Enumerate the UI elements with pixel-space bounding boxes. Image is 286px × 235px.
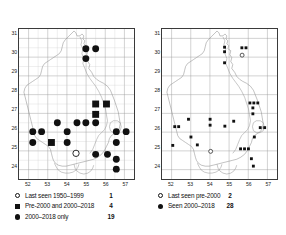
x-tick-54: 54 [60,181,74,187]
left-y-axis: 31 30 29 28 27 26 25 24 [0,28,17,180]
data-point-filled-square [256,102,259,105]
x-tick-55: 55 [79,181,93,187]
right-map-legend: Last seen pre-2000 2 Seen 2000–2018 28 [156,190,284,211]
data-point-open-circle [73,150,79,156]
data-point-filled-square [223,50,226,53]
left-map-data-points [19,29,134,179]
x-tick-56: 56 [242,181,256,187]
data-point-filled-square [253,136,256,139]
y-tick-30: 30 [144,50,160,55]
x-tick-54: 54 [203,181,217,187]
data-point-filled-square [196,143,199,146]
data-point-filled-square [223,61,226,64]
legend-item-pre-2000-and-2000-2018: Pre-2000 and 2000–2018 4 [13,201,141,212]
legend-item-last-seen-1950-1999: Last seen 1950–1999 1 [13,190,141,201]
data-point-filled-square [92,111,99,118]
data-point-filled-square [92,101,99,108]
data-point-filled-square [103,101,110,108]
legend-label: 2000–2018 only [25,213,68,220]
y-tick-28: 28 [1,88,17,93]
data-point-filled-square [232,120,235,123]
y-tick-27: 27 [144,107,160,112]
legend-item-last-seen-pre-2000: Last seen pre-2000 2 [156,190,284,201]
y-tick-31: 31 [1,31,17,36]
data-point-filled-circle [54,119,61,126]
right-map-panel: 31 30 29 28 27 26 25 24 [143,0,286,235]
right-map-plot-area [161,28,278,180]
data-point-filled-square [247,147,250,150]
x-tick-57: 57 [261,181,275,187]
open-circle-icon [156,190,168,201]
data-point-filled-circle [92,151,99,158]
data-point-filled-square [240,46,243,49]
data-point-filled-square [251,106,254,109]
legend-count: 28 [222,202,238,209]
legend-count: 1 [103,192,119,199]
distribution-maps-figure: 31 30 29 28 27 26 25 24 [0,0,286,235]
data-point-filled-square [190,136,193,139]
filled-circle-icon [156,201,168,212]
data-point-filled-circle [29,139,36,146]
y-tick-30: 30 [1,50,17,55]
data-point-filled-circle [113,128,120,135]
x-tick-57: 57 [118,181,132,187]
y-tick-27: 27 [1,107,17,112]
data-point-filled-square [252,102,255,105]
data-point-filled-square [245,46,248,49]
x-tick-55: 55 [222,181,236,187]
y-tick-26: 26 [144,126,160,131]
filled-square-icon [13,201,25,212]
data-point-filled-circle [113,139,120,146]
y-tick-29: 29 [1,69,17,74]
legend-label: Seen 2000–2018 [168,202,215,209]
y-tick-25: 25 [144,145,160,150]
data-point-filled-circle [113,166,120,173]
data-point-filled-square [209,124,212,127]
x-tick-53: 53 [40,181,54,187]
data-point-filled-circle [92,45,99,52]
data-point-filled-circle [38,128,45,135]
data-point-filled-circle [92,119,99,126]
x-tick-56: 56 [99,181,113,187]
y-tick-26: 26 [1,126,17,131]
data-point-filled-square [187,118,190,121]
data-point-filled-square [252,165,255,168]
legend-count: 4 [103,202,119,209]
y-tick-31: 31 [144,31,160,36]
x-tick-52: 52 [21,181,35,187]
legend-label: Last seen pre-2000 [168,192,220,199]
x-tick-52: 52 [164,181,178,187]
data-point-filled-circle [74,119,81,126]
data-point-filled-circle [64,139,71,146]
data-point-filled-circle [82,119,89,126]
left-map-legend: Last seen 1950–1999 1 Pre-2000 and 2000–… [13,190,141,222]
legend-count: 19 [103,213,119,220]
data-point-filled-square [239,147,242,150]
data-point-open-circle [209,149,213,153]
data-point-filled-square [223,46,226,49]
filled-circle-icon [13,211,25,222]
y-tick-24: 24 [1,164,17,169]
legend-item-2000-2018-only: 2000–2018 only 19 [13,211,141,222]
left-map-plot-area [18,28,135,180]
data-point-filled-square [223,125,226,128]
data-point-filled-circle [64,128,71,135]
data-point-filled-circle [104,151,111,158]
data-point-filled-square [173,125,176,128]
data-point-filled-square [248,102,251,105]
data-point-filled-circle [82,55,89,62]
y-tick-29: 29 [144,69,160,74]
data-point-filled-square [250,157,253,160]
x-tick-53: 53 [183,181,197,187]
legend-count: 2 [222,192,238,199]
legend-label: Last seen 1950–1999 [25,192,84,199]
data-point-filled-square [209,118,212,121]
data-point-filled-circle [29,128,36,135]
data-point-filled-square [259,126,262,129]
data-point-filled-square [48,139,55,146]
right-y-axis: 31 30 29 28 27 26 25 24 [143,28,160,180]
right-map-data-points [162,29,277,179]
data-point-filled-circle [113,156,120,163]
right-x-axis: 52 53 54 55 56 57 [161,181,278,190]
left-x-axis: 52 53 54 55 56 57 [18,181,135,190]
